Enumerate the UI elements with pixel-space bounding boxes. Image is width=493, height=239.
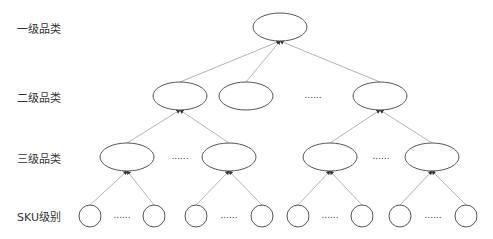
ellipsis-l3: ...... <box>171 151 188 161</box>
ellipsis-sku: ...... <box>321 210 338 220</box>
ellipsis-sku: ...... <box>424 210 441 220</box>
node-sku <box>389 205 411 227</box>
node-sku <box>251 205 273 227</box>
edges <box>90 41 466 205</box>
node-sku <box>351 205 373 227</box>
ellipsis-sku: ...... <box>113 210 130 220</box>
node-root <box>253 13 307 41</box>
node-sku <box>287 205 309 227</box>
node-level3 <box>303 143 357 171</box>
node-sku <box>185 205 207 227</box>
ellipsis-sku: ...... <box>220 210 237 220</box>
node-sku <box>455 205 477 227</box>
node-level3 <box>405 143 459 171</box>
node-level2 <box>353 82 407 110</box>
node-level2 <box>219 82 273 110</box>
node-sku <box>143 205 165 227</box>
node-level3 <box>202 143 256 171</box>
tree-diagram: ...... ...... ...... ...... ...... .....… <box>0 0 493 239</box>
node-level3 <box>100 143 154 171</box>
node-level2 <box>153 82 207 110</box>
ellipsis-l3: ...... <box>372 151 389 161</box>
ellipsis-l2: ...... <box>304 90 321 100</box>
node-sku <box>79 205 101 227</box>
